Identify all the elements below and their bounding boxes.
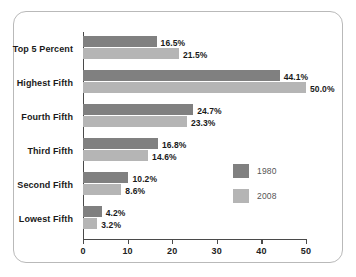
x-tick-label: 30 bbox=[212, 246, 222, 256]
bar-value-label: 21.5% bbox=[183, 50, 208, 60]
x-tick bbox=[128, 239, 129, 244]
category-label: Highest Fifth bbox=[17, 78, 73, 88]
bar-value-label: 16.8% bbox=[162, 140, 187, 150]
bar bbox=[83, 36, 157, 47]
x-tick bbox=[83, 239, 84, 244]
bar-value-label: 23.3% bbox=[191, 118, 216, 128]
bar bbox=[83, 184, 121, 195]
x-tick-label: 20 bbox=[167, 246, 177, 256]
x-tick bbox=[306, 239, 307, 244]
category-label: Third Fifth bbox=[27, 146, 73, 156]
category-label: Top 5 Percent bbox=[13, 44, 73, 54]
bar-value-label: 10.2% bbox=[132, 174, 157, 184]
category-label: Second Fifth bbox=[17, 180, 73, 190]
bar bbox=[83, 104, 193, 115]
bar bbox=[83, 218, 97, 229]
legend-swatch bbox=[233, 164, 249, 178]
bar bbox=[83, 82, 306, 93]
category-label: Fourth Fifth bbox=[21, 112, 73, 122]
x-tick bbox=[172, 239, 173, 244]
legend-label: 2008 bbox=[257, 191, 277, 201]
bar bbox=[83, 206, 102, 217]
chart-plot-area: 01020304050 Top 5 PercentHighest FifthFo… bbox=[14, 12, 344, 264]
bar-value-label: 16.5% bbox=[161, 38, 186, 48]
bar bbox=[83, 48, 179, 59]
x-tick bbox=[217, 239, 218, 244]
x-tick-label: 40 bbox=[256, 246, 266, 256]
bar-value-label: 8.6% bbox=[125, 186, 145, 196]
legend-swatch bbox=[233, 189, 249, 203]
bar-value-label: 50.0% bbox=[310, 84, 335, 94]
bar bbox=[83, 172, 128, 183]
chart-card: 01020304050 Top 5 PercentHighest FifthFo… bbox=[13, 11, 343, 263]
category-label: Lowest Fifth bbox=[19, 214, 73, 224]
bar-value-label: 3.2% bbox=[101, 220, 121, 230]
bar bbox=[83, 116, 187, 127]
bar-value-label: 24.7% bbox=[197, 106, 222, 116]
x-tick-label: 50 bbox=[301, 246, 311, 256]
legend-label: 1980 bbox=[257, 166, 277, 176]
bar bbox=[83, 150, 148, 161]
x-tick-label: 0 bbox=[80, 246, 85, 256]
bar-value-label: 4.2% bbox=[106, 208, 126, 218]
x-tick-label: 10 bbox=[122, 246, 132, 256]
bar bbox=[83, 70, 280, 81]
bar-value-label: 44.1% bbox=[284, 72, 309, 82]
x-tick bbox=[261, 239, 262, 244]
bar bbox=[83, 138, 158, 149]
bar-value-label: 14.6% bbox=[152, 152, 177, 162]
x-axis-line bbox=[83, 239, 307, 240]
